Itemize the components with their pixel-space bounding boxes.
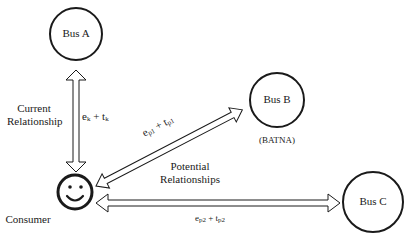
bus-c-label: Bus C: [348, 195, 398, 207]
potential-c-formula: ep2 + tp2: [195, 212, 225, 227]
potential-relationships-title: Potential Relationships: [150, 160, 230, 186]
bus-b-label: Bus B: [252, 93, 302, 105]
potential-title-line2: Relationships: [150, 173, 230, 186]
current-title-line2: Relationship: [7, 115, 61, 128]
potential-bus-c-arrow: [96, 194, 340, 212]
bus-b-batna-note: (BATNA): [252, 135, 302, 145]
formula-e-sub: p2: [199, 216, 206, 224]
smiley-face-icon: [58, 175, 92, 209]
formula-t-sub: p2: [218, 216, 225, 224]
relationship-diagram: Bus A Bus B (BATNA) Bus C Consumer Curre…: [0, 0, 405, 234]
bus-a-label: Bus A: [51, 27, 101, 39]
current-title-line1: Current: [7, 102, 61, 115]
potential-title-line1: Potential: [150, 160, 230, 173]
current-formula: ek + tk: [82, 110, 109, 126]
formula-t-sub: k: [105, 115, 109, 123]
formula-plus: +: [90, 110, 102, 122]
current-relationship-title: Current Relationship: [7, 102, 61, 128]
consumer-label: Consumer: [0, 213, 56, 225]
formula-plus: +: [206, 213, 216, 223]
